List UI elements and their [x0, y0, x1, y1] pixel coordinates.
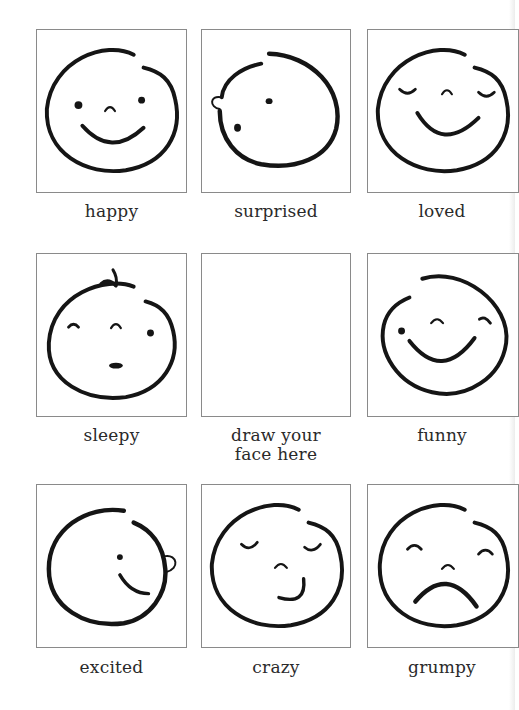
draw-your-face-area[interactable] — [201, 253, 351, 417]
grumpy-face-icon — [368, 485, 518, 647]
label-sleepy: sleepy — [36, 426, 187, 445]
label-loved: loved — [367, 202, 517, 221]
face-box-loved — [367, 29, 519, 193]
face-box-excited — [36, 484, 187, 648]
happy-face-icon — [37, 30, 186, 192]
face-box-crazy — [201, 484, 351, 648]
face-box-grumpy — [367, 484, 519, 648]
excited-face-icon — [37, 485, 186, 647]
label-happy: happy — [36, 202, 187, 221]
face-box-funny — [367, 253, 519, 417]
label-draw-your-face: draw your face here — [201, 426, 351, 464]
label-draw-line1: draw your — [201, 426, 351, 445]
label-surprised: surprised — [201, 202, 351, 221]
loved-face-icon — [368, 30, 518, 192]
label-excited: excited — [36, 658, 187, 677]
crazy-face-icon — [202, 485, 350, 647]
label-crazy: crazy — [201, 658, 351, 677]
face-box-sleepy — [36, 253, 187, 417]
label-draw-line2: face here — [201, 445, 351, 464]
label-funny: funny — [367, 426, 517, 445]
surprised-face-icon — [202, 30, 350, 192]
face-box-happy — [36, 29, 187, 193]
sleepy-face-icon — [37, 254, 186, 416]
funny-face-icon — [368, 254, 518, 416]
face-box-surprised — [201, 29, 351, 193]
label-grumpy: grumpy — [367, 658, 517, 677]
